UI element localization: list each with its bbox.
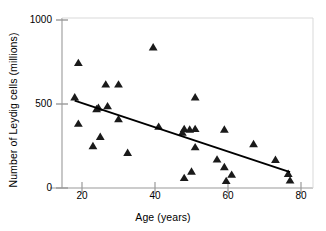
data-point [74, 119, 83, 126]
data-point [123, 149, 132, 156]
data-point [286, 176, 295, 183]
data-point [227, 170, 236, 177]
x-tick-label-40: 40 [142, 190, 168, 201]
y-tick-label-1000: 1000 [18, 14, 52, 25]
x-tick-label-20: 20 [69, 190, 95, 201]
y-tick-label-0: 0 [18, 182, 52, 193]
data-point [74, 59, 83, 66]
data-point [149, 43, 158, 50]
data-point [101, 80, 110, 87]
data-point [220, 163, 229, 170]
data-point [191, 125, 200, 132]
y-tick-label-500: 500 [18, 98, 52, 109]
data-point [114, 80, 123, 87]
data-point [220, 125, 229, 132]
x-axis-title: Age (years) [0, 211, 326, 223]
x-tick-label-60: 60 [215, 190, 241, 201]
data-point [213, 155, 222, 162]
data-point [96, 133, 105, 140]
y-axis-title: Number of Leydig cells (millions) [7, 25, 19, 195]
data-point [180, 174, 189, 181]
data-point [222, 177, 231, 184]
data-point [187, 167, 196, 174]
regression-line [75, 101, 290, 172]
data-point [70, 93, 79, 100]
scatter-plot-figure: 1000 500 0 20 40 60 80 Age (years) Numbe… [0, 0, 326, 231]
data-point [191, 143, 200, 150]
data-point [103, 102, 112, 109]
regression-line-group [75, 101, 290, 172]
data-point [191, 93, 200, 100]
data-point [271, 156, 280, 163]
data-point [249, 140, 258, 147]
x-tick-label-80: 80 [288, 190, 314, 201]
data-point [89, 142, 98, 149]
